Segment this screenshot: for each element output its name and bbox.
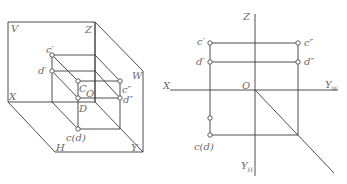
label-H: H xyxy=(55,142,65,153)
label-Z: Z xyxy=(84,24,93,35)
point-cd xyxy=(76,127,80,131)
proj-line xyxy=(95,71,120,98)
left-axonometric-figure: V Z X H Y W O C D c′ d′ c″ d″ c(d) xyxy=(8,22,143,153)
label-d-dprime: d″ xyxy=(123,94,133,105)
label-W: W xyxy=(132,70,143,81)
label-c-dprime: c″ xyxy=(304,37,314,48)
point-extra xyxy=(208,116,212,120)
right-orthographic-figure: Z X O YW YH c′ d′ c″ d″ c(d) xyxy=(162,11,339,176)
point-cd xyxy=(208,133,212,137)
label-cd: c(d) xyxy=(66,132,86,143)
label-d-dprime: d″ xyxy=(304,56,314,67)
point-d-dprime xyxy=(296,60,300,64)
point-c-prime xyxy=(208,41,212,45)
label-O: O xyxy=(242,80,250,91)
label-Yh: YH xyxy=(241,160,254,173)
proj-line xyxy=(52,102,78,129)
projection-diagram: V Z X H Y W O C D c′ d′ c″ d″ c(d) Z xyxy=(0,0,347,184)
h-plane-left-edge xyxy=(8,102,55,152)
point-D xyxy=(76,96,80,100)
point-c-dprime xyxy=(296,41,300,45)
45-degree-line xyxy=(255,90,334,173)
point-d-prime xyxy=(50,69,54,73)
point-d-prime xyxy=(208,60,212,64)
label-cd: c(d) xyxy=(194,141,214,152)
label-D: D xyxy=(78,103,87,114)
label-V: V xyxy=(11,23,20,34)
label-Y: Y xyxy=(131,142,139,153)
proj-line xyxy=(95,55,120,81)
label-O: O xyxy=(86,88,94,99)
point-d-dprime xyxy=(118,96,122,100)
label-d-prime: d′ xyxy=(38,65,47,76)
label-C: C xyxy=(79,83,87,94)
label-Z: Z xyxy=(242,11,251,22)
label-X: X xyxy=(162,80,171,91)
w-plane-top-edge xyxy=(95,22,143,71)
label-c-prime: c′ xyxy=(197,36,206,47)
label-c-prime: c′ xyxy=(46,44,55,55)
proj-line xyxy=(52,55,78,81)
point-c-dprime xyxy=(118,79,122,83)
proj-line xyxy=(52,71,78,98)
label-d-prime: d′ xyxy=(196,56,205,67)
label-X: X xyxy=(8,91,17,102)
